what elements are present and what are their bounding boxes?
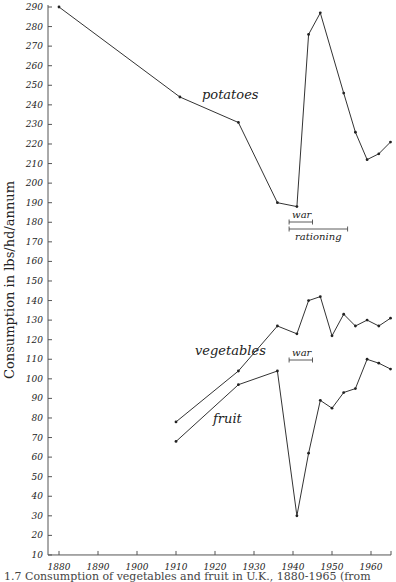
y-tick-label: 40 <box>31 491 44 501</box>
series-line-fruit <box>176 359 391 516</box>
data-point <box>276 201 279 204</box>
data-point <box>354 387 357 390</box>
data-point <box>389 368 392 371</box>
data-point <box>237 370 240 373</box>
data-point <box>175 440 178 443</box>
y-tick-label: 260 <box>25 61 43 71</box>
data-point <box>175 420 178 423</box>
data-point <box>276 370 279 373</box>
data-point <box>179 96 182 99</box>
annotation-war: war <box>292 209 313 220</box>
data-point <box>366 319 369 322</box>
data-point <box>319 11 322 14</box>
data-point <box>276 325 279 328</box>
y-tick-label: 20 <box>31 530 44 540</box>
data-point <box>237 121 240 124</box>
y-tick-label: 150 <box>26 276 43 286</box>
y-tick-label: 140 <box>26 296 43 306</box>
data-point <box>307 33 310 36</box>
series-label-fruit: fruit <box>212 411 243 426</box>
series-label-vegetables: vegetables <box>195 343 266 358</box>
data-point <box>319 399 322 402</box>
series-line-potatoes <box>59 7 391 207</box>
y-tick-label: 270 <box>25 41 43 51</box>
data-point <box>296 514 299 517</box>
y-tick-label: 30 <box>32 511 44 521</box>
y-tick-label: 10 <box>32 550 44 560</box>
y-tick-label: 50 <box>32 472 44 482</box>
annotations: warrationingwar <box>289 209 348 363</box>
data-point <box>366 158 369 161</box>
figure-caption: 1.7 Consumption of vegetables and fruit … <box>4 570 371 582</box>
data-point <box>389 317 392 320</box>
y-axis-label: Consumption in lbs/hd/annum <box>2 181 17 379</box>
y-tick-label: 120 <box>26 335 43 345</box>
y-tick-label: 220 <box>25 139 43 149</box>
annotation-rationing: rationing <box>295 231 341 242</box>
y-tick-label: 180 <box>26 217 43 227</box>
y-tick-label: 200 <box>25 178 43 188</box>
y-tick-label: 130 <box>26 315 43 325</box>
y-tick-label: 190 <box>26 198 43 208</box>
data-point <box>389 141 392 144</box>
data-point <box>342 313 345 316</box>
y-tick-label: 70 <box>32 433 44 443</box>
data-point <box>366 358 369 361</box>
data-point <box>307 452 310 455</box>
y-tick-label: 170 <box>26 237 43 247</box>
y-tick-label: 250 <box>25 80 43 90</box>
data-point <box>377 152 380 155</box>
series-line-vegetables <box>176 297 391 422</box>
line-chart: 1020304050607080901001101201301401501601… <box>0 0 396 582</box>
data-point <box>296 205 299 208</box>
y-tick-label: 290 <box>25 2 43 12</box>
series-lines: potatoesvegetablesfruit <box>58 6 392 518</box>
data-point <box>377 362 380 365</box>
y-tick-label: 210 <box>25 159 43 169</box>
data-point <box>58 6 61 9</box>
y-tick-label: 60 <box>32 452 44 462</box>
data-point <box>237 383 240 386</box>
data-point <box>331 334 334 337</box>
data-point <box>296 332 299 335</box>
data-point <box>319 295 322 298</box>
data-point <box>354 131 357 134</box>
data-point <box>331 407 334 410</box>
data-point <box>307 299 310 302</box>
y-tick-label: 280 <box>25 22 43 32</box>
annotation-war: war <box>292 347 313 358</box>
series-label-potatoes: potatoes <box>202 87 259 102</box>
y-tick-label: 230 <box>25 119 43 129</box>
y-tick-label: 110 <box>26 354 43 364</box>
y-tick-label: 80 <box>32 413 44 423</box>
y-tick-label: 90 <box>32 393 44 403</box>
data-point <box>354 325 357 328</box>
y-tick-label: 240 <box>25 100 43 110</box>
data-point <box>342 92 345 95</box>
data-point <box>342 391 345 394</box>
data-point <box>377 325 380 328</box>
y-tick-label: 160 <box>26 256 43 266</box>
y-tick-label: 100 <box>26 374 43 384</box>
